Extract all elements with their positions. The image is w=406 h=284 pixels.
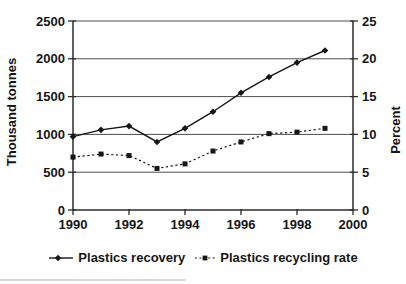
left-axis-tick-label: 1500 [36, 89, 65, 104]
right-axis-tick-label: 0 [362, 203, 369, 218]
square-marker [127, 153, 132, 158]
left-axis-title: Thousand tonnes [4, 58, 19, 166]
chart-legend: Plastics recovery Plastics recycling rat… [0, 250, 406, 265]
right-axis-title: Percent [388, 106, 403, 154]
plastics-chart: 0500100015002000250005101520251990199219… [0, 0, 406, 284]
x-axis-tick-label: 1990 [59, 217, 88, 232]
diamond-marker [126, 123, 133, 130]
chart-plot-area: 0500100015002000250005101520251990199219… [0, 0, 406, 284]
scan-artifact-line [0, 279, 186, 281]
right-axis-tick-label: 5 [362, 165, 369, 180]
x-axis-tick-label: 2000 [339, 217, 368, 232]
right-axis-tick-label: 10 [362, 127, 376, 142]
square-marker [211, 149, 216, 154]
square-marker [267, 131, 272, 136]
square-marker [323, 126, 328, 131]
left-axis-tick-label: 0 [58, 203, 65, 218]
diamond-marker [154, 139, 161, 146]
x-axis-tick-label: 1992 [115, 217, 144, 232]
square-marker [99, 152, 104, 157]
diamond-marker [294, 59, 301, 66]
diamond-marker [322, 47, 329, 54]
square-marker [183, 161, 188, 166]
square-marker [155, 166, 160, 171]
legend-label-plastics-recycling-rate: Plastics recycling rate [220, 250, 357, 265]
right-axis-tick-label: 15 [362, 89, 376, 104]
square-marker [71, 155, 76, 160]
square-marker [239, 139, 244, 144]
x-axis-tick-label: 1994 [171, 217, 201, 232]
dotted-line-square-icon [194, 253, 216, 263]
x-axis-tick-label: 1998 [283, 217, 312, 232]
square-marker [295, 130, 300, 135]
legend-label-plastics-recovery: Plastics recovery [78, 250, 185, 265]
left-axis-tick-label: 2000 [36, 51, 65, 66]
x-axis-tick-label: 1996 [227, 217, 256, 232]
diamond-marker [266, 74, 273, 81]
left-axis-tick-label: 500 [43, 165, 65, 180]
legend-item-plastics-recycling-rate: Plastics recycling rate [194, 250, 357, 265]
left-axis-tick-label: 1000 [36, 127, 65, 142]
diamond-marker [182, 125, 189, 132]
left-axis-tick-label: 2500 [36, 14, 65, 29]
legend-item-plastics-recovery: Plastics recovery [48, 250, 185, 265]
diamond-marker [98, 127, 105, 134]
right-axis-tick-label: 20 [362, 51, 376, 66]
right-axis-tick-label: 25 [362, 14, 376, 29]
solid-line-diamond-icon [48, 253, 74, 263]
